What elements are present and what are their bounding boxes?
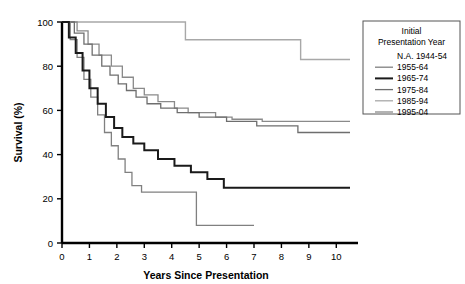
y-tick-label: 40 — [42, 149, 53, 160]
y-tick-label: 60 — [42, 105, 53, 116]
x-axis-title: Years Since Presentation — [143, 269, 268, 281]
legend-title-line-2: Presentation Year — [378, 37, 445, 47]
x-tick-label: 1 — [87, 251, 92, 262]
x-tick-label: 7 — [251, 251, 256, 262]
x-tick-label: 10 — [331, 251, 342, 262]
x-tick-label: 8 — [279, 251, 284, 262]
y-tick-label: 20 — [42, 193, 53, 204]
x-tick-label: 6 — [224, 251, 229, 262]
y-tick-label: 80 — [42, 61, 53, 72]
x-tick-label: 2 — [114, 251, 119, 262]
y-tick-label: 0 — [48, 238, 53, 249]
legend-label-1995-04: 1995-04 — [397, 107, 428, 117]
legend-label-1985-94: 1985-94 — [397, 96, 428, 106]
x-tick-label: 0 — [59, 251, 64, 262]
x-tick-label: 3 — [142, 251, 147, 262]
plot-area: 020406080100012345678910Years Since Pres… — [12, 17, 460, 282]
y-axis-title: Survival (%) — [12, 102, 24, 162]
series-line-1955-64 — [62, 22, 254, 225]
x-tick-label: 9 — [306, 251, 311, 262]
x-tick-label: 4 — [169, 251, 174, 262]
legend-label-1965-74: 1965-74 — [397, 73, 428, 83]
legend-title-line-1: Initial — [402, 26, 422, 36]
legend-label-1955-64: 1955-64 — [397, 62, 428, 72]
legend-label-1975-84: 1975-84 — [397, 85, 428, 95]
survival-chart: 020406080100012345678910Years Since Pres… — [0, 0, 465, 284]
series-line-1965-74 — [62, 22, 350, 188]
y-tick-label: 100 — [37, 17, 53, 28]
legend-label-n-a-1944-54: N.A. 1944-54 — [397, 51, 447, 61]
x-tick-label: 5 — [196, 251, 201, 262]
series-line-1985-94 — [62, 22, 350, 60]
